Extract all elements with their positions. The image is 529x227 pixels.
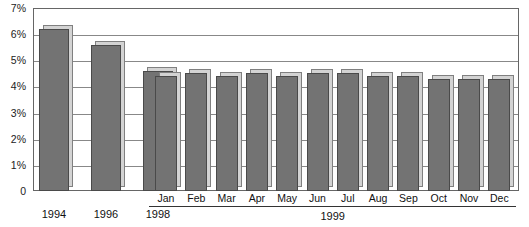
bar-mar[interactable] — [216, 71, 238, 191]
bar-body — [367, 76, 389, 191]
y-tick-label: 1% — [0, 160, 26, 170]
x-tick-label-1994: 1994 — [31, 208, 77, 221]
y-axis: 7%6%5%4%3%2%1%0 — [0, 0, 30, 200]
y-tick-label: 4% — [0, 81, 26, 91]
bar-jun[interactable] — [307, 68, 329, 191]
bar-body — [91, 45, 121, 191]
bar-oct[interactable] — [428, 74, 450, 191]
bar-apr[interactable] — [246, 68, 268, 191]
bar-aug[interactable] — [367, 71, 389, 191]
bar-1994[interactable] — [39, 24, 69, 191]
y-tick-label: 0 — [0, 186, 26, 196]
bar-body — [246, 73, 268, 191]
bar-body — [397, 76, 419, 191]
bar-chart: 7%6%5%4%3%2%1%0 199419961998JanFebMarApr… — [0, 0, 529, 227]
bar-body — [39, 29, 69, 191]
bar-body — [458, 79, 480, 191]
bar-may[interactable] — [276, 71, 298, 191]
bar-body — [185, 73, 207, 191]
bars-layer — [33, 8, 519, 191]
bar-sep[interactable] — [397, 71, 419, 191]
bar-body — [428, 79, 450, 191]
group-underline — [149, 206, 516, 207]
bar-jan[interactable] — [155, 71, 177, 191]
x-tick-label-1996: 1996 — [83, 208, 129, 221]
bar-nov[interactable] — [458, 74, 480, 191]
y-tick-label: 3% — [0, 108, 26, 118]
y-tick-label: 5% — [0, 55, 26, 65]
bar-body — [307, 73, 329, 191]
y-tick-label: 6% — [0, 29, 26, 39]
bar-feb[interactable] — [185, 68, 207, 191]
bar-1996[interactable] — [91, 40, 121, 191]
bar-body — [276, 76, 298, 191]
bar-body — [216, 76, 238, 191]
bar-dec[interactable] — [488, 74, 510, 191]
y-tick-label: 2% — [0, 134, 26, 144]
group-label-1999: 1999 — [149, 210, 516, 223]
x-axis: 199419961998JanFebMarAprMayJunJulAugSepO… — [33, 192, 519, 227]
bar-body — [488, 79, 510, 191]
bar-jul[interactable] — [337, 68, 359, 191]
x-tick-label-dec: Dec — [480, 192, 518, 204]
bar-body — [337, 73, 359, 191]
bar-body — [155, 76, 177, 191]
y-tick-label: 7% — [0, 3, 26, 13]
